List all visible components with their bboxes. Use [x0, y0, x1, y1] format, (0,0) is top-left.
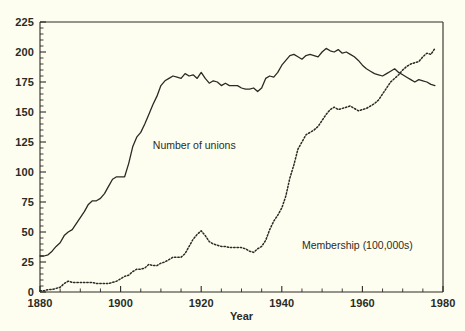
series-label-number-of-unions: Number of unions [153, 140, 236, 151]
series-path-1 [40, 48, 435, 290]
chart-plot-area [0, 0, 465, 331]
series-label-membership: Membership (100,000s) [302, 240, 413, 251]
chart-figure: 0255075100125150175200225 18801900192019… [0, 0, 465, 331]
x-tick-label: 1920 [171, 298, 231, 309]
x-tick-label: 1880 [10, 298, 70, 309]
y-tick-label: 25 [0, 257, 34, 268]
y-tick-label: 150 [0, 107, 34, 118]
y-tick-label: 100 [0, 167, 34, 178]
y-tick-label: 125 [0, 137, 34, 148]
y-tick-label: 75 [0, 197, 34, 208]
y-axis-ticks [40, 22, 46, 292]
x-tick-label: 1960 [332, 298, 392, 309]
x-tick-label: 1980 [413, 298, 465, 309]
x-axis-ticks [40, 286, 443, 292]
y-tick-label: 225 [0, 17, 34, 28]
y-tick-label: 200 [0, 47, 34, 58]
data-series-group [40, 48, 435, 290]
y-tick-label: 50 [0, 227, 34, 238]
x-tick-label: 1940 [252, 298, 312, 309]
x-axis-title: Year [0, 311, 465, 322]
x-tick-label: 1900 [91, 298, 151, 309]
y-tick-label: 175 [0, 77, 34, 88]
series-path-0 [40, 48, 435, 256]
axis-spines [40, 22, 443, 292]
y-tick-label: 0 [0, 287, 34, 298]
